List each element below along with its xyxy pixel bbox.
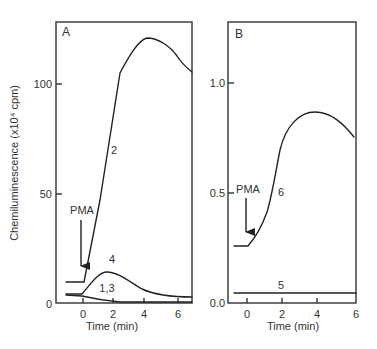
panel-a-frame bbox=[56, 22, 192, 303]
curve-label-4: 4 bbox=[109, 253, 115, 265]
curve-label-2: 2 bbox=[111, 144, 117, 156]
x-tick-label: 2 bbox=[110, 308, 116, 320]
x-tick-label: 0 bbox=[80, 308, 86, 320]
x-tick-label: 2 bbox=[279, 308, 285, 320]
y-tick-label: 0.5 bbox=[210, 187, 225, 199]
curve-2 bbox=[66, 38, 192, 282]
curve-label-1-3: 1,3 bbox=[99, 282, 114, 294]
x-axis-title: Time (min) bbox=[267, 320, 319, 332]
panel-b: B 1.0 0.5 0.0 0 2 4 6 Time (min) PMA 6 5 bbox=[210, 22, 359, 332]
panel-a: A 100 50 0 Chemiluminescence (x10⁴ cpm) … bbox=[8, 22, 192, 332]
y-tick-label: 50 bbox=[40, 188, 52, 200]
panel-a-y-axis: 100 50 0 Chemiluminescence (x10⁴ cpm) bbox=[8, 78, 62, 310]
pma-label: PMA bbox=[236, 183, 261, 195]
x-tick-label: 6 bbox=[175, 308, 181, 320]
x-tick-label: 4 bbox=[141, 308, 147, 320]
x-axis-title: Time (min) bbox=[86, 320, 138, 332]
y-tick-label: 0.0 bbox=[210, 297, 225, 309]
panel-a-label: A bbox=[62, 25, 70, 39]
curve-6 bbox=[234, 112, 354, 246]
y-tick-label: 1.0 bbox=[210, 77, 225, 89]
panel-b-frame bbox=[228, 22, 356, 303]
x-tick-label: 6 bbox=[353, 308, 359, 320]
y-axis-title: Chemiluminescence (x10⁴ cpm) bbox=[8, 85, 20, 241]
curve-label-6: 6 bbox=[278, 186, 284, 198]
x-tick-label: 4 bbox=[314, 308, 320, 320]
panel-b-label: B bbox=[235, 27, 243, 41]
y-tick-label: 100 bbox=[34, 78, 52, 90]
x-tick-label: 0 bbox=[244, 308, 250, 320]
y-tick-label: 0 bbox=[46, 298, 52, 310]
panel-b-y-axis: 1.0 0.5 0.0 bbox=[210, 77, 234, 309]
curve-label-5: 5 bbox=[278, 279, 284, 291]
pma-label: PMA bbox=[70, 204, 95, 216]
